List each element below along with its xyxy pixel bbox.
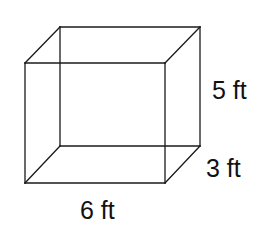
depth-edges xyxy=(25,27,200,183)
depth-edge-top-left xyxy=(25,27,60,63)
front-face xyxy=(25,63,165,183)
depth-edge-top-right xyxy=(165,27,200,63)
depth-label: 3 ft xyxy=(206,154,241,182)
length-label: 6 ft xyxy=(80,196,115,224)
depth-edge-bottom-right xyxy=(165,146,200,183)
back-face xyxy=(60,27,200,146)
rectangular-prism-diagram: 5 ft 3 ft 6 ft xyxy=(0,0,275,234)
depth-edge-bottom-left xyxy=(25,146,60,183)
height-label: 5 ft xyxy=(212,76,247,104)
